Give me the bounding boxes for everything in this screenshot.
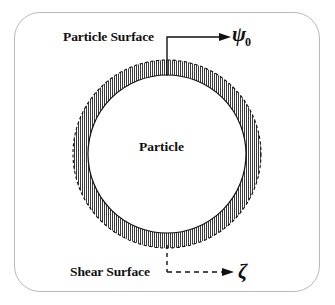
zeta-symbol: ζ [238,261,247,282]
shear-surface-label: Shear Surface [70,265,150,279]
psi-zero-symbol: ψ0 [232,24,251,48]
figure-root: Particle Surface Particle Shear Surface … [0,0,335,305]
particle-surface-circle [88,75,246,233]
psi-glyph: ψ [232,22,246,46]
psi-subscript: 0 [245,35,251,49]
particle-surface-label: Particle Surface [63,30,154,44]
particle-label: Particle [139,140,184,154]
